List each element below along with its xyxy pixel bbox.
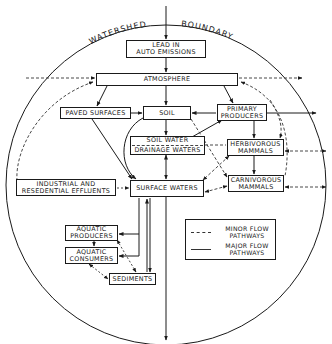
node-soil: SOIL [143, 106, 191, 120]
node-sediments: SEDIMENTS [109, 273, 156, 285]
node-soil-water-drainage-waters: SOIL WATER DRAINAGE WATERS [130, 136, 205, 155]
node-label: RESEDENTIAL EFFLUENTS [22, 188, 110, 195]
boundary-label-right: BOUNDARY [181, 19, 235, 41]
legend-item-major: MAJOR FLOW PATHWAYS [186, 243, 275, 256]
node-label: PRODUCERS [70, 233, 113, 240]
node-paved-surfaces: PAVED SURFACES [60, 107, 131, 119]
node-label: SEDIMENTS [113, 276, 153, 283]
node-label: SOIL WATER [147, 137, 189, 144]
node-industrial-residential-effluents: INDUSTRIAL AND RESEDENTIAL EFFLUENTS [16, 179, 116, 196]
node-label: CONSUMERS [70, 256, 114, 263]
node-label: MAMMALS [238, 148, 273, 155]
node-aquatic-producers: AQUATIC PRODUCERS [65, 225, 118, 241]
legend: MINOR FLOW PATHWAYS MAJOR FLOW PATHWAYS [185, 219, 276, 260]
node-herbivorous-mammals: HERBIVOROUS MAMMALS [227, 139, 284, 156]
node-label: SOIL [159, 110, 175, 117]
node-atmosphere: ATMOSPHERE [96, 73, 238, 86]
node-label: ATMOSPHERE [144, 76, 191, 83]
node-label: PAVED SURFACES [65, 110, 125, 117]
node-label: PRODUCERS [221, 113, 264, 120]
node-surface-waters: SURFACE WATERS [130, 180, 204, 197]
dashed-line-swatch [191, 232, 211, 233]
node-label: AUTO EMISSIONS [136, 49, 196, 56]
legend-label: MINOR FLOW PATHWAYS [223, 226, 271, 239]
node-carnivorous-mammals: CARNIVOROUS MAMMALS [228, 175, 284, 192]
legend-label: MAJOR FLOW PATHWAYS [223, 243, 271, 256]
node-lead-in-auto-emissions: LEAD IN AUTO EMISSIONS [126, 40, 206, 58]
node-label: DRAINAGE WATERS [134, 147, 200, 154]
watershed-lead-flow-diagram: WATERSHED BOUNDARY [0, 0, 332, 344]
node-label: MAMMALS [238, 184, 273, 191]
legend-item-minor: MINOR FLOW PATHWAYS [186, 226, 275, 239]
node-label: SURFACE WATERS [136, 185, 198, 192]
node-aquatic-consumers: AQUATIC CONSUMERS [65, 247, 118, 264]
node-primary-producers: PRIMARY PRODUCERS [217, 104, 267, 121]
solid-line-swatch [191, 249, 211, 250]
